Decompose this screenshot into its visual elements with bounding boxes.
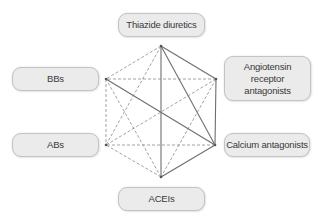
node-label: ACEIs (149, 193, 175, 205)
vertex-dot (105, 78, 108, 81)
vertex-dot (215, 78, 218, 81)
node-label: Thiazide diuretics (126, 19, 196, 31)
vertex-dot (160, 45, 163, 48)
edge-thiazide-arb (161, 46, 216, 79)
node-label: ABs (47, 139, 64, 151)
vertex-dot (105, 144, 108, 147)
node-aceis: ACEIs (118, 187, 205, 211)
node-angiotensin-receptor-antagonists: Angiotensin receptor antagonists (224, 56, 311, 101)
node-label: Angiotensin receptor antagonists (244, 61, 291, 97)
vertex-dot (214, 144, 217, 147)
node-bbs: BBs (12, 67, 99, 91)
edge-thiazide-bb (106, 46, 161, 79)
node-label: BBs (47, 73, 64, 85)
node-abs: ABs (12, 133, 99, 157)
node-thiazide-diuretics: Thiazide diuretics (118, 13, 205, 37)
node-label: Calcium antagonists (226, 139, 308, 151)
node-calcium-antagonists: Calcium antagonists (224, 133, 310, 157)
edge-acei-ab (106, 145, 161, 177)
edge-arb-acei (161, 79, 216, 177)
drug-combination-diagram: Thiazide diuretics Angiotensin receptor … (0, 0, 321, 218)
edge-acei-bb (106, 79, 161, 177)
vertex-dot (160, 176, 163, 179)
edge-arb-calcium (215, 79, 216, 145)
edge-calcium-acei (161, 145, 215, 177)
